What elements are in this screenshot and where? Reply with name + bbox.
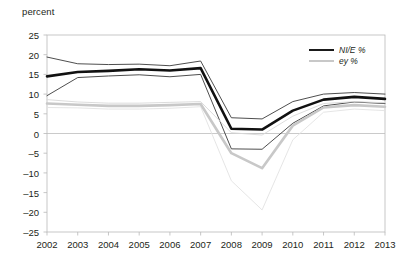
series-line <box>47 107 385 210</box>
legend-item-ey: ey % <box>309 55 365 66</box>
y-tick-label: 0 <box>13 128 39 139</box>
x-tick-label: 2012 <box>344 239 365 250</box>
x-tick-label: 2002 <box>36 239 57 250</box>
chart-plot-svg <box>0 0 403 270</box>
series-line <box>47 74 385 149</box>
x-tick-label: 2007 <box>190 239 211 250</box>
legend-swatch <box>309 49 334 51</box>
y-tick-label: –15 <box>13 187 39 198</box>
series-line <box>47 68 385 129</box>
x-tick-label: 2013 <box>374 239 395 250</box>
y-tick-label: 10 <box>13 89 39 100</box>
x-tick-label: 2005 <box>129 239 150 250</box>
chart-container: percent 2520151050–5–10–15–20–25 2002200… <box>0 0 403 270</box>
series-line <box>47 57 385 119</box>
x-tick-label: 2009 <box>252 239 273 250</box>
x-tick-label: 2003 <box>67 239 88 250</box>
y-tick-label: 25 <box>13 30 39 41</box>
y-tick-label: –20 <box>13 207 39 218</box>
x-tick-label: 2011 <box>313 239 333 250</box>
y-tick-label: 15 <box>13 69 39 80</box>
series-line <box>47 104 385 169</box>
legend-item-nie: NI/E % <box>309 44 365 55</box>
y-tick-label: 5 <box>13 108 39 119</box>
y-tick-label: –10 <box>13 167 39 178</box>
x-tick-label: 2010 <box>282 239 303 250</box>
x-tick-label: 2008 <box>221 239 242 250</box>
legend-swatch <box>309 60 334 62</box>
legend-label: NI/E % <box>339 45 365 55</box>
chart-legend: NI/E %ey % <box>309 44 365 66</box>
x-tick-label: 2006 <box>159 239 180 250</box>
y-tick-label: –5 <box>13 148 39 159</box>
legend-label: ey % <box>339 56 358 66</box>
x-tick-label: 2004 <box>98 239 119 250</box>
y-tick-label: –25 <box>13 227 39 238</box>
y-tick-label: 20 <box>13 49 39 60</box>
